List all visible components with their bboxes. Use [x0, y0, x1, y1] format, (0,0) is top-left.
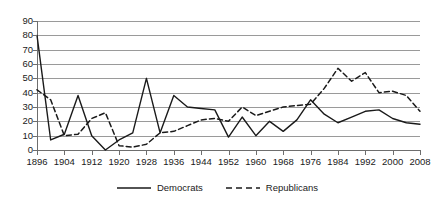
- y-axis-tick: [33, 35, 37, 36]
- line-chart: 0102030405060708090 18961904191219201928…: [0, 0, 434, 207]
- x-axis-tick: [174, 151, 175, 155]
- legend-swatch-solid-icon: [116, 184, 152, 192]
- x-axis-tick: [338, 151, 339, 155]
- x-axis-tick: [283, 151, 284, 155]
- x-axis-tick: [420, 151, 421, 155]
- legend-item-democrats: Democrats: [116, 182, 203, 193]
- x-axis-tick: [393, 151, 394, 155]
- y-axis-tick: [33, 93, 37, 94]
- x-axis-tick: [311, 151, 312, 155]
- x-axis-tick: [146, 151, 147, 155]
- legend-item-republicans: Republicans: [225, 182, 318, 193]
- y-axis-tick: [33, 50, 37, 51]
- x-axis-tick: [92, 151, 93, 155]
- legend-swatch-dashed-icon: [225, 184, 261, 192]
- x-axis-tick: [256, 151, 257, 155]
- x-axis-tick: [229, 151, 230, 155]
- x-axis-tick: [64, 151, 65, 155]
- y-axis-tick: [33, 78, 37, 79]
- y-axis-tick: [33, 21, 37, 22]
- series-line-republicans: [37, 68, 420, 147]
- series-line-democrats: [37, 35, 420, 150]
- y-axis-tick: [33, 121, 37, 122]
- x-axis-tick: [119, 151, 120, 155]
- x-axis-tick: [201, 151, 202, 155]
- chart-legend: Democrats Republicans: [0, 182, 434, 193]
- series-layer: [0, 0, 434, 207]
- x-axis-tick: [365, 151, 366, 155]
- x-axis-tick: [37, 151, 38, 155]
- legend-label-democrats: Democrats: [157, 182, 203, 193]
- y-axis-tick: [33, 107, 37, 108]
- y-axis-tick: [33, 136, 37, 137]
- legend-label-republicans: Republicans: [266, 182, 318, 193]
- y-axis-tick: [33, 64, 37, 65]
